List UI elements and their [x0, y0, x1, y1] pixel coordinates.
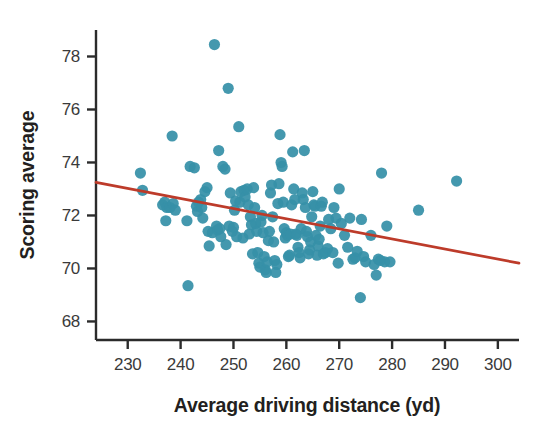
scatter-point: [381, 220, 392, 231]
scatter-point: [268, 236, 279, 247]
scatter-point: [209, 39, 220, 50]
scatter-point: [223, 83, 234, 94]
scatter-point: [451, 175, 462, 186]
scatter-point: [264, 226, 275, 237]
y-axis-tick-labels: 687072747678: [62, 47, 80, 331]
scatter-point: [181, 215, 192, 226]
scatter-point: [135, 167, 146, 178]
scatter-point: [376, 167, 387, 178]
scatter-points-group: [135, 39, 462, 303]
y-tick-label: 70: [62, 259, 80, 278]
scatter-point: [167, 130, 178, 141]
scatter-point: [384, 256, 395, 267]
x-tick-label: 280: [378, 355, 405, 374]
scatter-point: [284, 250, 295, 261]
x-axis-title: Average driving distance (yd): [174, 394, 441, 416]
scatter-point: [413, 205, 424, 216]
scatter-point: [189, 162, 200, 173]
scatter-point: [371, 269, 382, 280]
scatter-point: [219, 164, 230, 175]
scatter-point: [306, 211, 317, 222]
scatter-point: [314, 234, 325, 245]
x-tick-label: 240: [167, 355, 194, 374]
x-tick-label: 260: [273, 355, 300, 374]
x-tick-label: 250: [220, 355, 247, 374]
scatter-point: [182, 280, 193, 291]
scatter-point: [355, 292, 366, 303]
y-axis-ticks: [87, 56, 96, 321]
x-tick-label: 270: [325, 355, 352, 374]
scatter-point: [277, 161, 288, 172]
scatter-point: [220, 239, 231, 250]
scatter-point: [287, 146, 298, 157]
scatter-point: [317, 197, 328, 208]
y-tick-label: 78: [62, 47, 80, 66]
scatter-point: [307, 186, 318, 197]
x-tick-label: 300: [484, 355, 511, 374]
scatter-plot-figure: 687072747678 230240250260270280290300 Av…: [0, 0, 535, 428]
scatter-point: [248, 182, 259, 193]
scatter-point: [299, 145, 310, 156]
scatter-point: [201, 182, 212, 193]
scatter-point: [160, 215, 171, 226]
scatter-point: [271, 259, 282, 270]
chart-canvas: 687072747678 230240250260270280290300 Av…: [0, 0, 535, 428]
scatter-point: [356, 214, 367, 225]
scatter-point: [170, 205, 181, 216]
y-axis-title: Scoring average: [16, 110, 38, 259]
x-tick-label: 230: [114, 355, 141, 374]
scatter-point: [204, 240, 215, 251]
scatter-point: [328, 202, 339, 213]
x-tick-label: 290: [431, 355, 458, 374]
scatter-point: [333, 258, 344, 269]
y-tick-label: 74: [62, 153, 80, 172]
scatter-point: [344, 213, 355, 224]
y-tick-label: 76: [62, 100, 80, 119]
scatter-point: [327, 247, 338, 258]
scatter-point: [213, 145, 224, 156]
scatter-point: [274, 129, 285, 140]
scatter-point: [334, 183, 345, 194]
x-axis-tick-labels: 230240250260270280290300: [114, 355, 512, 374]
scatter-point: [197, 213, 208, 224]
y-tick-label: 68: [62, 312, 80, 331]
scatter-point: [273, 178, 284, 189]
x-axis-ticks: [128, 340, 498, 349]
scatter-point: [233, 121, 244, 132]
y-tick-label: 72: [62, 206, 80, 225]
